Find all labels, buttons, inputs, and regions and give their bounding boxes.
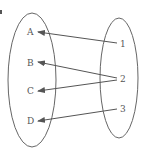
codomain-set xyxy=(100,18,138,138)
domain-element-b: B xyxy=(27,58,34,68)
corner-mark xyxy=(0,10,2,14)
arrow-2-to-c xyxy=(38,80,117,91)
arrow-2-to-b xyxy=(38,62,117,78)
domain-element-d: D xyxy=(27,116,34,126)
domain-element-a: A xyxy=(26,27,34,37)
domain-element-c: C xyxy=(27,86,34,96)
mapping-diagram: A B C D 1 2 3 xyxy=(0,0,145,153)
codomain-element-3: 3 xyxy=(120,104,126,114)
codomain-element-2: 2 xyxy=(120,74,126,84)
codomain-element-1: 1 xyxy=(120,39,126,49)
